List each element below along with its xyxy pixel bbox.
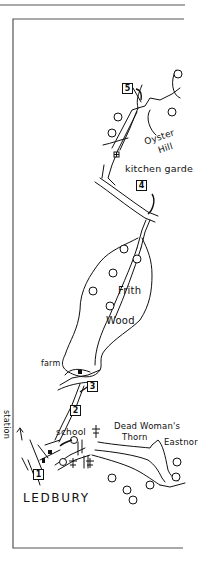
waypoint-2: 2 [70,405,81,416]
waypoint-3: 3 [87,381,98,392]
waypoint-5: 5 [122,83,133,94]
label-dead-womans: Dead Woman's [114,422,180,431]
farm-building [78,370,82,374]
waypoint-4: 4 [136,180,147,191]
route-map: 5 4 3 2 1 Oyster Hill kitchen garde Frit… [0,0,198,569]
label-eastnor: Eastnor [164,438,198,447]
label-wood: Wood [106,316,135,326]
label-thorn: Thorn [122,433,148,442]
label-school: school [56,428,86,437]
school-building [48,450,52,454]
map-title-ledbury: LEDBURY [23,492,90,504]
label-frith: Frith [118,286,141,296]
label-farm: farm [41,360,60,368]
label-station: station [2,410,10,439]
kitchen-garden-marker [114,152,119,157]
waypoint-1: 1 [33,469,44,480]
label-kitchen-garden: kitchen garde [125,164,193,174]
church-building [42,458,45,463]
map-linework [0,0,198,569]
